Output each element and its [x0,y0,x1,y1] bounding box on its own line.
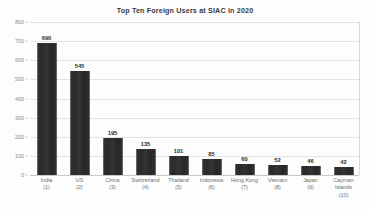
category-name: US [63,177,96,184]
bar-chart-figure: Top Ten Foreign Users at SIAC in 2020 80… [0,0,370,209]
bar-value-label: 195 [108,130,118,136]
x-axis-category-label: Vietnam(8) [261,177,294,192]
x-axis-category-label: Thailand(5) [162,177,195,192]
category-rank: (3) [96,184,129,191]
bar[interactable] [136,149,155,175]
y-axis-tick-label: 500 [15,76,24,82]
x-axis-category-label: US(2) [63,177,96,192]
bar-value-label: 60 [241,156,247,162]
y-axis-tick-mark [25,41,28,42]
bars-layer: 6905451951351018560524642 [30,22,360,175]
y-axis-tick-mark [25,22,28,23]
category-rank: (7) [228,184,261,191]
x-axis-category-label: Cayman Islands(10) [327,177,360,199]
y-axis-tick-mark [25,79,28,80]
y-axis-tick-mark [25,136,28,137]
x-axis-category-label: China(3) [96,177,129,192]
category-name: Cayman Islands [327,177,360,192]
bar-slot: 101 [162,22,195,175]
bar-value-label: 42 [340,159,346,165]
category-name: Thailand [162,177,195,184]
category-name: Switzerland [129,177,162,184]
category-rank: (9) [294,184,327,191]
y-axis-tick-label: 600 [15,57,24,63]
y-axis-tick-label: 300 [15,115,24,121]
bar[interactable] [301,166,320,175]
chart-title: Top Ten Foreign Users at SIAC in 2020 [0,6,370,15]
bar[interactable] [202,159,221,175]
bar-value-label: 46 [307,158,313,164]
bar-slot: 42 [327,22,360,175]
x-axis-category-label: Switzerland(4) [129,177,162,192]
y-axis-tick-mark [25,117,28,118]
y-axis: 8007006005004003002001000 [0,22,28,175]
category-name: India [30,177,63,184]
bar-value-label: 690 [42,35,52,41]
x-axis-category-label: Japan(9) [294,177,327,192]
bar-slot: 545 [63,22,96,175]
y-axis-tick-label: 800 [15,19,24,25]
y-axis-tick-label: 0 [21,172,24,178]
bar-slot: 195 [96,22,129,175]
bar[interactable] [268,165,287,175]
category-name: Vietnam [261,177,294,184]
bar-value-label: 135 [141,141,151,147]
y-axis-tick-label: 700 [15,38,24,44]
bar-slot: 60 [228,22,261,175]
category-rank: (5) [162,184,195,191]
x-axis-category-label: Indonesia(6) [195,177,228,192]
x-axis-category-label: India(1) [30,177,63,192]
category-name: Japan [294,177,327,184]
x-axis-category-label: Hong Kong(7) [228,177,261,192]
bar[interactable] [169,156,188,175]
y-axis-tick-label: 400 [15,96,24,102]
category-rank: (10) [327,192,360,199]
axis-baseline [30,175,359,176]
bar-slot: 46 [294,22,327,175]
bar-slot: 85 [195,22,228,175]
bar-value-label: 52 [274,157,280,163]
category-rank: (6) [195,184,228,191]
bar[interactable] [37,43,56,175]
bar[interactable] [103,138,122,175]
bar[interactable] [334,167,353,175]
y-axis-tick-mark [25,98,28,99]
y-axis-tick-mark [25,155,28,156]
y-axis-tick-label: 100 [15,153,24,159]
y-axis-tick-mark [25,60,28,61]
bar-value-label: 545 [75,63,85,69]
category-name: China [96,177,129,184]
bar-value-label: 101 [174,148,184,154]
category-rank: (2) [63,184,96,191]
y-axis-tick-mark [25,175,28,176]
bar-slot: 135 [129,22,162,175]
category-rank: (4) [129,184,162,191]
category-name: Hong Kong [228,177,261,184]
bar-slot: 52 [261,22,294,175]
category-rank: (8) [261,184,294,191]
bar[interactable] [235,164,254,175]
x-axis-labels: India(1)US(2)China(3)Switzerland(4)Thail… [30,177,360,209]
bar-slot: 690 [30,22,63,175]
category-name: Indonesia [195,177,228,184]
bar-value-label: 85 [208,151,214,157]
y-axis-tick-label: 200 [15,134,24,140]
bar[interactable] [70,71,89,175]
category-rank: (1) [30,184,63,191]
